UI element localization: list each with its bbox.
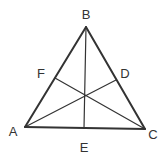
segment-be [84, 27, 86, 128]
label-vertex-a: A [9, 125, 18, 138]
side-bc [86, 27, 145, 129]
label-point-e: E [80, 141, 89, 154]
triangle-diagram [0, 0, 166, 157]
side-ab [25, 27, 86, 127]
side-ac [25, 127, 145, 129]
label-point-f: F [37, 67, 45, 80]
label-vertex-c: C [148, 128, 157, 141]
label-point-d: D [120, 67, 129, 80]
segment-cf [55, 78, 145, 129]
label-vertex-b: B [82, 8, 91, 21]
